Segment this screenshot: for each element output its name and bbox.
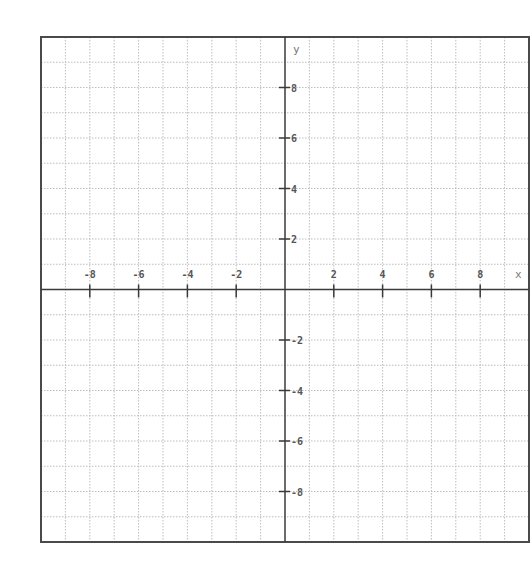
x-tick-label: 8: [477, 269, 483, 280]
x-tick-label: 2: [331, 269, 337, 280]
x-tick-label: 6: [428, 269, 434, 280]
coordinate-plane: -8-6-4-224688642-2-4-6-8 x y: [0, 0, 532, 574]
x-tick-label: 4: [380, 269, 386, 280]
y-tick-label: -8: [291, 487, 303, 498]
y-tick-label: 6: [291, 133, 297, 144]
y-tick-label: 4: [291, 184, 297, 195]
y-tick-label: -4: [291, 386, 303, 397]
y-tick-label: 2: [291, 234, 297, 245]
x-tick-label: -4: [181, 269, 193, 280]
y-tick-label: -2: [291, 335, 303, 346]
y-axis-label: y: [293, 43, 300, 56]
x-tick-label: -8: [84, 269, 96, 280]
x-axis-label: x: [515, 268, 522, 281]
y-tick-label: -6: [291, 436, 303, 447]
x-tick-label: -2: [230, 269, 242, 280]
x-tick-label: -6: [133, 269, 145, 280]
y-tick-label: 8: [291, 83, 297, 94]
